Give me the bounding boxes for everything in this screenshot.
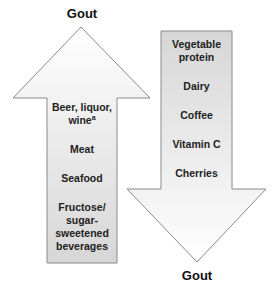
factor-cherries: Cherries <box>175 167 218 180</box>
factor-vitamin-c: Vitamin C <box>172 138 220 151</box>
up-arrow-target-label: Gout <box>52 6 112 21</box>
decrease-factors-list: Vegetable protein Dairy Coffee Vitamin C… <box>161 38 232 180</box>
factor-coffee: Coffee <box>180 109 213 122</box>
down-arrow-target-label: Gout <box>167 268 227 283</box>
footnote-marker: a <box>92 114 96 121</box>
factor-alcohol: Beer, liquor, winea <box>47 101 117 127</box>
factor-alcohol-text: Beer, liquor, wine <box>52 101 112 126</box>
factor-dairy: Dairy <box>183 80 209 93</box>
arrows-canvas <box>0 0 279 288</box>
factor-seafood: Seafood <box>61 172 102 185</box>
increase-factors-list: Beer, liquor, winea Meat Seafood Fructos… <box>47 101 117 253</box>
factor-vegetable-protein: Vegetable protein <box>165 38 229 64</box>
factor-meat: Meat <box>70 143 94 156</box>
factor-sugary-beverages: Fructose/ sugar-sweetened beverages <box>49 201 115 253</box>
